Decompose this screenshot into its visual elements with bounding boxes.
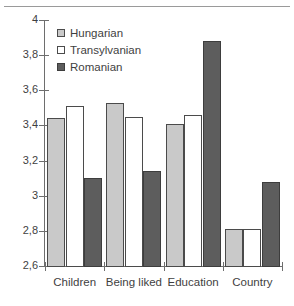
bar-transylvanian-being-liked [125, 117, 143, 267]
legend-label-hungarian: Hungarian [70, 27, 123, 39]
y-axis-tick-label: 2,8 [23, 225, 38, 236]
x-axis-label-country: Country [223, 276, 282, 289]
y-axis-tick-label: 2,6 [23, 260, 38, 271]
legend-swatch-icon-romanian [57, 63, 65, 71]
x-axis-tick [223, 262, 224, 271]
y-axis-tick-label: 3,4 [23, 119, 38, 130]
x-axis-tick [104, 262, 105, 271]
y-axis-tick-label: 3 [32, 190, 38, 201]
legend-item-hungarian: Hungarian [57, 25, 141, 40]
legend-item-transylvanian: Transylvanian [57, 42, 141, 57]
x-axis-label-education: Education [164, 276, 223, 289]
bar-romanian-being-liked [143, 171, 161, 267]
y-axis-tick [39, 20, 49, 21]
x-axis-label-being-liked: Being liked [104, 276, 163, 289]
y-axis-tick [39, 55, 49, 56]
clipped-caption-strip [6, 299, 288, 306]
x-axis-label-children: Children [45, 276, 104, 289]
y-axis-tick [39, 90, 49, 91]
plot-area: 43,83,63,43,232,82,6 ChildrenBeing liked… [0, 0, 294, 306]
legend-item-romanian: Romanian [57, 59, 141, 74]
bar-romanian-children [84, 178, 102, 267]
y-axis-tick-label: 3,8 [23, 49, 38, 60]
bar-romanian-country [262, 182, 280, 267]
legend-swatch-icon-hungarian [57, 29, 65, 37]
legend-label-romanian: Romanian [70, 61, 122, 73]
legend-label-transylvanian: Transylvanian [70, 44, 141, 56]
chart-legend: Hungarian Transylvanian Romanian [57, 25, 141, 76]
chart-figure: 43,83,63,43,232,82,6 ChildrenBeing liked… [0, 0, 294, 306]
bar-hungarian-children [47, 118, 65, 267]
bar-transylvanian-country [243, 229, 261, 267]
bar-hungarian-country [225, 229, 243, 267]
bar-hungarian-being-liked [106, 103, 124, 267]
x-axis-tick [282, 262, 283, 271]
y-axis-tick-label: 3,6 [23, 84, 38, 95]
x-axis-tick [164, 262, 165, 271]
bar-romanian-education [203, 41, 221, 267]
y-axis-tick-label: 4 [32, 14, 38, 25]
x-axis-tick [45, 262, 46, 271]
bar-hungarian-education [166, 124, 184, 267]
bar-transylvanian-education [184, 115, 202, 267]
legend-swatch-icon-transylvanian [57, 46, 65, 54]
y-axis-tick-label: 3,2 [23, 155, 38, 166]
bar-transylvanian-children [66, 106, 84, 267]
